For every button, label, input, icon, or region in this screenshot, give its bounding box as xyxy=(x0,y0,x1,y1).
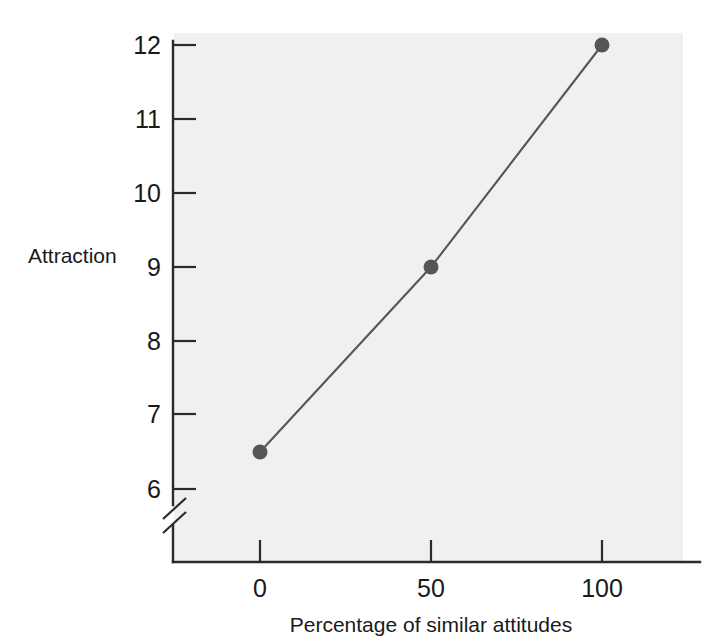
y-tick-label-6: 6 xyxy=(147,475,161,503)
data-point-100 xyxy=(595,38,610,53)
plot-area-background xyxy=(174,33,683,562)
attraction-similarity-line-chart: 12 11 10 9 8 7 6 0 50 100 Attraction Per… xyxy=(0,0,715,641)
data-point-50 xyxy=(424,260,439,275)
chart-canvas: 12 11 10 9 8 7 6 0 50 100 Attraction Per… xyxy=(0,0,715,641)
x-tick-label-50: 50 xyxy=(417,574,445,602)
y-tick-label-11: 11 xyxy=(135,105,161,133)
y-tick-label-10: 10 xyxy=(133,179,161,207)
x-axis-title: Percentage of similar attitudes xyxy=(290,613,572,636)
y-tick-label-12: 12 xyxy=(133,31,161,59)
y-tick-label-9: 9 xyxy=(147,253,161,281)
data-point-0 xyxy=(253,445,268,460)
y-tick-label-7: 7 xyxy=(147,400,161,428)
y-axis-title: Attraction xyxy=(28,244,117,267)
x-tick-label-100: 100 xyxy=(581,574,623,602)
x-tick-label-0: 0 xyxy=(253,574,267,602)
y-tick-label-8: 8 xyxy=(147,327,161,355)
